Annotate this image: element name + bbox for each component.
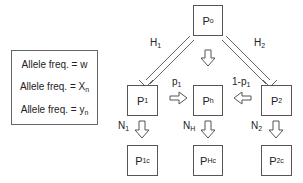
label-p1: p1 [172, 76, 181, 88]
node-p2: P2 [261, 85, 292, 116]
allele-frequency-legend: Allele freq. = w Allele freq. = Xn Allel… [11, 50, 98, 125]
node-phc: PHc [193, 145, 223, 176]
node-p0: Po [193, 5, 223, 36]
legend-row-w: Allele freq. = w [22, 59, 88, 70]
arrow-down-right [269, 121, 283, 138]
label-h1: H1 [150, 37, 161, 49]
label-h2: H2 [254, 37, 265, 49]
label-n1: N1 [118, 120, 129, 132]
node-p1: P1 [127, 85, 158, 116]
diagonal-arrow-left [139, 36, 194, 87]
label-nh: NH [183, 120, 195, 132]
node-p1c: P1c [127, 145, 158, 176]
label-one-minus-p1: 1-p1 [232, 76, 250, 88]
node-p2c: P2c [261, 145, 292, 176]
arrow-left [234, 92, 251, 104]
legend-row-xn: Allele freq. = Xn [20, 81, 89, 93]
arrow-right [170, 92, 187, 104]
node-ph: Ph [193, 85, 223, 116]
legend-row-yn: Allele freq. = yn [21, 104, 89, 116]
arrow-down-center [201, 50, 215, 66]
arrow-down-left [135, 121, 149, 138]
arrow-down-mid [201, 121, 215, 138]
label-n2: N2 [251, 120, 262, 132]
